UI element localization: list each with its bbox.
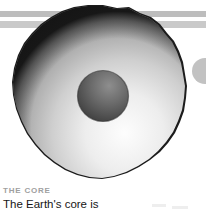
caption-body: The Earth's core is (3, 197, 153, 211)
earth-core-svg (8, 4, 190, 188)
clipped-circle-right-edge (192, 58, 206, 84)
faint-mark-left (152, 204, 166, 207)
earth-core-illustration (8, 4, 190, 188)
caption-block: THE CORE The Earth's core is (3, 186, 153, 211)
faint-mark-right (172, 206, 188, 209)
caption-kicker: THE CORE (3, 186, 153, 196)
page-root: THE CORE The Earth's core is (0, 0, 206, 215)
